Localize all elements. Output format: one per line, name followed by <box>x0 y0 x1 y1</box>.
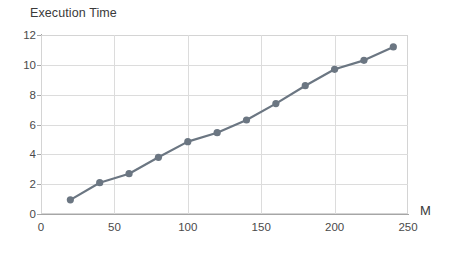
y-axis-tick-mark <box>37 184 41 185</box>
x-axis-tick-label: 250 <box>388 221 428 233</box>
series-line-execution-time <box>41 35 408 214</box>
data-point-marker <box>155 154 162 161</box>
y-axis-tick-label: 4 <box>2 148 36 160</box>
y-axis-tick-mark <box>37 125 41 126</box>
data-point-marker <box>125 170 132 177</box>
y-axis-tick-label: 12 <box>2 29 36 41</box>
x-axis-label: M <box>420 203 431 218</box>
data-point-marker <box>302 82 309 89</box>
series-markers <box>67 43 397 203</box>
plot-area <box>41 35 408 214</box>
y-axis-tick-label: 6 <box>2 119 36 131</box>
data-point-marker <box>214 129 221 136</box>
y-axis-tick-label: 2 <box>2 178 36 190</box>
execution-time-chart: Execution Time 024681012 050100150200250… <box>0 0 455 255</box>
y-axis-tick-label: 8 <box>2 89 36 101</box>
y-axis-tick-label: 10 <box>2 59 36 71</box>
data-point-marker <box>184 138 191 145</box>
y-axis-tick-mark <box>37 65 41 66</box>
y-axis-tick-labels: 024681012 <box>0 0 36 255</box>
data-point-marker <box>67 196 74 203</box>
x-axis-tick-label: 200 <box>315 221 355 233</box>
data-point-marker <box>96 179 103 186</box>
y-axis-tick-mark <box>37 35 41 36</box>
x-axis-line <box>41 214 409 215</box>
x-axis-tick-label: 150 <box>241 221 281 233</box>
x-axis-tick-label: 0 <box>21 221 61 233</box>
chart-title: Execution Time <box>30 6 117 20</box>
x-axis-tick-label: 50 <box>94 221 134 233</box>
x-axis-tick-label: 100 <box>168 221 208 233</box>
data-point-marker <box>243 116 250 123</box>
series-polyline <box>70 47 393 200</box>
y-axis-tick-mark <box>37 154 41 155</box>
y-axis-tick-mark <box>37 214 41 215</box>
y-axis-tick-mark <box>37 95 41 96</box>
y-axis-tick-label: 0 <box>2 208 36 220</box>
data-point-marker <box>390 43 397 50</box>
data-point-marker <box>360 57 367 64</box>
data-point-marker <box>331 66 338 73</box>
data-point-marker <box>272 100 279 107</box>
